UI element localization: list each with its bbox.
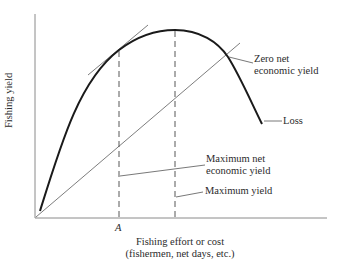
label-zero-net-line1: Zero net <box>254 53 318 65</box>
label-maximum-yield: Maximum yield <box>205 185 272 197</box>
x-axis-label-line1: Fishing effort or cost <box>100 236 260 248</box>
leader-zero-net <box>229 57 253 63</box>
diagram-canvas <box>0 0 344 272</box>
x-tick-label-a: A <box>115 222 121 233</box>
x-axis-label-line2: (fishermen, net days, etc.) <box>100 248 260 260</box>
label-max-net-line1: Maximum net <box>206 153 270 165</box>
yield-curve <box>40 30 262 211</box>
y-axis-label: Fishing yield <box>3 73 14 128</box>
x-axis-label: Fishing effort or cost (fishermen, net d… <box>100 236 260 260</box>
label-max-net-line2: economic yield <box>206 165 270 177</box>
label-maximum-net-economic-yield: Maximum net economic yield <box>206 153 270 177</box>
label-zero-net-economic-yield: Zero net economic yield <box>254 53 318 77</box>
leader-max-yield <box>176 192 203 197</box>
leader-max-net <box>120 165 205 176</box>
label-loss: Loss <box>283 115 303 127</box>
label-zero-net-line2: economic yield <box>254 65 318 77</box>
